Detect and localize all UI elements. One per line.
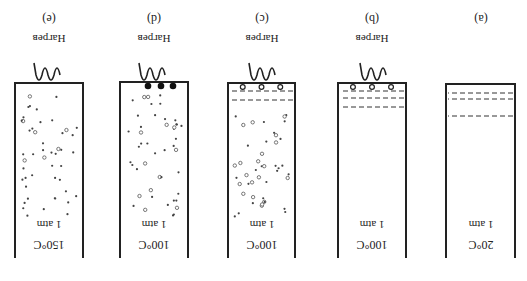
heater-label-d: Нагрев [138, 33, 171, 45]
vapor-particle [151, 196, 153, 198]
vapor-particle [55, 153, 57, 155]
open-bubble [250, 181, 253, 184]
vapor-particle [140, 142, 142, 144]
vapor-particle [28, 129, 30, 131]
particles-c [233, 114, 290, 217]
vapor-particle [51, 119, 53, 121]
vapor-particle [177, 193, 179, 195]
bubble [389, 85, 394, 90]
open-bubble [260, 203, 263, 206]
open-bubble [23, 159, 26, 162]
vapor-particle [279, 138, 281, 140]
vapor-particle [59, 179, 61, 181]
vapor-particle [43, 208, 45, 210]
vapor-particle [36, 108, 38, 110]
vapor-particle [159, 94, 161, 96]
panel-label-b: (b) [365, 12, 379, 26]
open-bubble [33, 131, 36, 134]
vapor-particle [138, 146, 140, 148]
panel-label-e: (e) [42, 12, 55, 26]
vapor-particle [173, 200, 175, 202]
vapor-particle [150, 103, 152, 105]
pressure-label-e: 1 atm [36, 219, 61, 231]
vapor-particle [235, 115, 237, 117]
open-bubble [165, 123, 168, 126]
open-bubble [263, 164, 266, 167]
vapor-particle [177, 171, 179, 173]
vapor-particle [284, 211, 286, 213]
vapor-particle [255, 169, 257, 171]
vapor-particle [281, 165, 283, 167]
panel-label-d: (d) [147, 12, 161, 26]
vapor-particle [273, 132, 275, 134]
vapor-particle [31, 127, 33, 129]
vapor-particle [42, 142, 44, 144]
vapor-particle [263, 121, 265, 123]
open-bubble [149, 188, 152, 191]
vapor-particle [129, 161, 131, 163]
vapor-particle [55, 96, 57, 98]
open-bubble [175, 206, 178, 209]
vapor-particle [140, 126, 142, 128]
vapor-particle [76, 127, 78, 129]
container-b [338, 83, 406, 258]
container-a [446, 84, 515, 258]
panel-e: 150°C 1 atm Нагрев (e) [15, 12, 83, 258]
open-bubble [138, 194, 141, 197]
vapor-particle [175, 199, 177, 201]
large-dark-bubbles-d [145, 83, 177, 90]
boiling-diagram: 20°C 1 atm (a) 100°C 1 atm Нагрев (b) 10… [0, 0, 527, 281]
panel-c: 100°C 1 atm Нагрев (c) [228, 12, 295, 258]
heater-label-c: Нагрев [246, 33, 279, 45]
open-bubble [274, 141, 277, 144]
vapor-particle [27, 198, 29, 200]
temperature-label-c: 100°C [247, 238, 278, 252]
temperature-label-e: 150°C [34, 238, 65, 252]
vapor-particle [42, 149, 44, 151]
vapor-particle [65, 190, 67, 192]
bottom-bubbles-b [351, 85, 394, 90]
dashed-lines-c [230, 91, 293, 100]
vapor-particle [176, 123, 178, 125]
vapor-particle [72, 151, 74, 153]
open-bubble [242, 192, 245, 195]
vapor-particle [32, 153, 34, 155]
diagram-stage: 20°C 1 atm (a) 100°C 1 atm Нагрев (b) 10… [0, 0, 527, 281]
vapor-particle [22, 167, 24, 169]
pressure-label-d: 1 atm [141, 219, 166, 231]
open-bubble [256, 160, 259, 163]
open-bubble [144, 208, 147, 211]
heater-label-e: Нагрев [33, 33, 66, 45]
open-bubble [245, 173, 248, 176]
vapor-particle [173, 213, 175, 215]
vapor-particle [146, 142, 148, 144]
vapor-particle [265, 181, 267, 183]
open-bubble [242, 123, 245, 126]
vapor-particle [167, 204, 169, 206]
vapor-particle [284, 120, 286, 122]
open-bubble [57, 147, 60, 150]
vapor-particle [247, 145, 249, 147]
panel-b: 100°C 1 atm Нагрев (b) [338, 12, 406, 258]
open-bubble [257, 176, 260, 179]
large-dark-bubble [145, 83, 152, 90]
bottom-bubbles-c [240, 85, 282, 90]
vapor-particle [21, 179, 23, 181]
vapor-particle [132, 205, 134, 207]
open-bubble [239, 161, 242, 164]
container-c [228, 83, 295, 258]
vapor-particle [61, 132, 63, 134]
vapor-particle [29, 105, 31, 107]
heater-label-b: Нагрев [356, 33, 389, 45]
vapor-particle [173, 145, 175, 147]
open-bubble [28, 95, 31, 98]
vapor-particle [238, 212, 240, 214]
large-dark-bubble [170, 83, 177, 90]
vapor-particle [66, 213, 68, 215]
vapor-particle [154, 114, 156, 116]
vapor-particle [159, 103, 161, 105]
pressure-label-a: 1 atm [468, 219, 493, 231]
bubble [259, 85, 264, 90]
temperature-label-b: 100°C [357, 238, 388, 252]
vapor-particle [21, 120, 23, 122]
